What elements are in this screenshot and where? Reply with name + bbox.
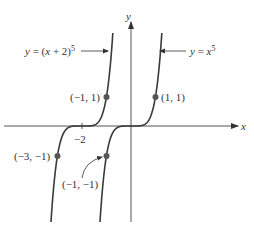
y-axis-label: y: [125, 10, 131, 22]
curve-label-quintic: y = x5: [189, 44, 216, 57]
point-label-neg1-neg1: (−1, −1): [62, 178, 99, 191]
point-label-1-1: (1, 1): [161, 91, 185, 104]
point-1-1: [153, 94, 159, 100]
tick-label-neg2: −2: [74, 133, 86, 145]
point-neg3-neg1: [55, 153, 61, 159]
x-axis-label: x: [240, 120, 246, 132]
point-label-neg1-1: (−1, 1): [70, 91, 100, 104]
point-neg1-1: [104, 94, 110, 100]
point-neg1-neg1-arrow: [82, 157, 102, 178]
curve-label-shifted: y = (x + 2)5: [24, 44, 75, 58]
graph-canvas: x y −2 y = (x + 2)5 y = x5 (−1, 1) (1, 1…: [0, 0, 254, 240]
point-neg1-neg1: [104, 153, 110, 159]
point-label-neg3-neg1: (−3, −1): [14, 150, 51, 163]
